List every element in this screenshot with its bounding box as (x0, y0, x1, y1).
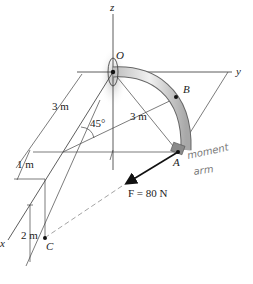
dim-label-2m: 2 m (21, 229, 38, 241)
label-C: C (46, 240, 54, 252)
annotation-arm: arm (193, 163, 215, 177)
label-A: A (172, 156, 180, 168)
force-label: F = 80 N (128, 187, 168, 199)
construction-line (26, 100, 100, 266)
label-B: B (183, 83, 190, 95)
dim-label-3m-radius: 3 m (130, 110, 147, 122)
annotation-moment: moment (186, 141, 230, 161)
construction-line (110, 150, 113, 160)
x-axis (8, 72, 113, 240)
y-axis-label: y (235, 65, 241, 77)
x-axis-label: x (0, 237, 5, 249)
point-B (174, 95, 178, 99)
force-arrow (127, 152, 178, 183)
statics-diagram: z y x O B A C 3 m 3 m 1 m 2 m 45° F = 80… (0, 0, 253, 284)
dimension-3m-x (16, 74, 82, 168)
dim-label-1m: 1 m (17, 158, 34, 170)
label-O: O (116, 49, 124, 61)
dim-label-3m-x: 3 m (52, 100, 69, 112)
z-axis-label: z (109, 1, 115, 13)
force-line-of-action (46, 186, 122, 237)
point-O (111, 70, 115, 74)
angle-label: 45° (90, 117, 105, 129)
